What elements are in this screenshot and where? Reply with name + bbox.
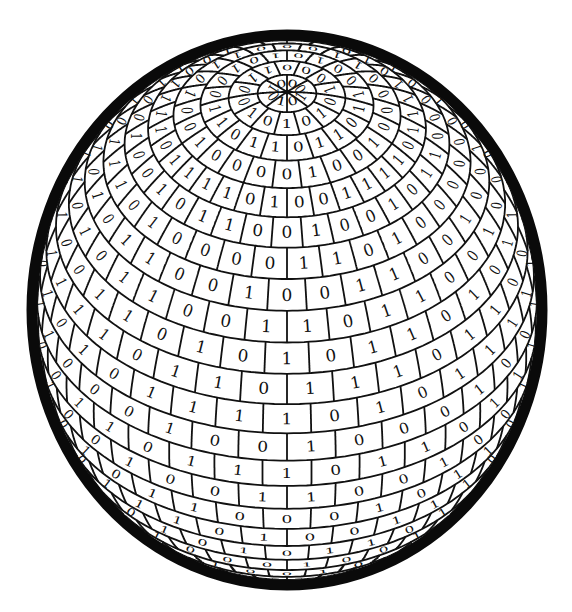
binary-digit: 0 xyxy=(328,510,340,524)
binary-digit: 1 xyxy=(324,546,336,556)
binary-sphere: 0100010101010001100101011011001010100110… xyxy=(0,0,572,612)
binary-digit: 0 xyxy=(234,510,246,523)
binary-digit: 0 xyxy=(282,63,293,72)
binary-digit: 0 xyxy=(282,44,293,48)
binary-digit: 0 xyxy=(258,379,270,398)
binary-digit: 1 xyxy=(282,410,293,428)
binary-digit: 1 xyxy=(282,116,293,130)
binary-digit: 1 xyxy=(127,133,144,140)
binary-digit: 0 xyxy=(261,561,272,568)
binary-digit: 1 xyxy=(269,193,281,212)
binary-digit: 0 xyxy=(282,165,293,183)
meridian-segment xyxy=(480,403,481,428)
meridian-segment xyxy=(263,403,264,432)
binary-digit: 1 xyxy=(54,211,71,218)
meridian-segment xyxy=(335,483,336,506)
binary-digit: 0 xyxy=(282,572,293,576)
binary-digit: 1 xyxy=(238,546,250,556)
meridian-segment xyxy=(382,421,383,448)
meridian-segment xyxy=(191,421,192,448)
binary-digit: 1 xyxy=(302,316,314,337)
binary-digit: 1 xyxy=(258,531,269,542)
binary-digit: 0 xyxy=(213,525,225,538)
binary-digit: 0 xyxy=(292,139,304,156)
meridian-segment xyxy=(335,430,336,457)
binary-digit: 0 xyxy=(304,531,316,542)
binary-digit: 0 xyxy=(293,193,305,212)
meridian-segment xyxy=(350,55,364,56)
binary-digit: 0 xyxy=(251,221,264,241)
binary-digit: 1 xyxy=(282,466,293,482)
binary-digit: 1 xyxy=(233,406,246,425)
binary-digit: 0 xyxy=(178,107,195,114)
binary-digit: 1 xyxy=(503,211,520,218)
meridian-segment xyxy=(507,377,508,403)
binary-digit: 0 xyxy=(282,285,293,305)
binary-digit: 0 xyxy=(472,168,489,175)
binary-digit: 0 xyxy=(257,437,269,455)
meridian-segment xyxy=(311,403,312,432)
binary-digit: 0 xyxy=(85,168,102,175)
meridian-segment xyxy=(94,403,95,428)
binary-digit: 0 xyxy=(293,52,304,60)
binary-digit: 1 xyxy=(305,490,317,505)
meridian-segment xyxy=(263,508,264,528)
binary-digit: 1 xyxy=(269,139,281,156)
binary-sphere-figure: 0100010101010001100101011011001010100110… xyxy=(0,0,572,612)
meridian-segment xyxy=(238,483,239,506)
binary-digit: 1 xyxy=(305,437,317,455)
binary-digit: 0 xyxy=(282,549,293,558)
binary-digit: 0 xyxy=(264,253,276,273)
binary-digit: 1 xyxy=(232,462,245,479)
binary-digit: 1 xyxy=(304,379,316,398)
binary-digit: 1 xyxy=(270,52,281,60)
meridian-segment xyxy=(210,55,224,56)
binary-digit: 0 xyxy=(329,462,342,479)
meridian-segment xyxy=(310,508,311,528)
meridian-segment xyxy=(238,430,239,457)
binary-digit: 1 xyxy=(282,348,293,368)
meridian-segment xyxy=(128,425,129,450)
binary-digit: 0 xyxy=(429,133,446,140)
binary-digit: 0 xyxy=(379,107,396,114)
pole-point xyxy=(285,90,290,95)
binary-digit: 0 xyxy=(282,223,293,242)
binary-digit: 1 xyxy=(257,490,269,505)
meridian-segment xyxy=(526,348,527,374)
binary-digit: 0 xyxy=(282,513,293,525)
meridian-segment xyxy=(67,377,68,403)
binary-digit: 1 xyxy=(298,253,310,273)
meridian-segment xyxy=(48,348,49,374)
meridian-segment xyxy=(445,425,446,450)
binary-digit: 1 xyxy=(301,561,312,569)
binary-digit: 0 xyxy=(348,525,360,537)
binary-digit: 1 xyxy=(260,316,272,337)
